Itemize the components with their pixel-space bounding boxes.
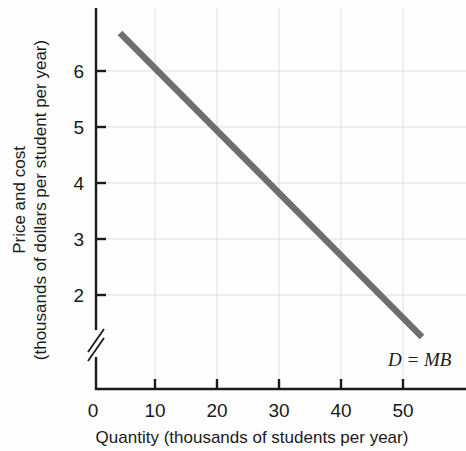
y-tick-label-6: 6 (73, 61, 84, 82)
y-tick-label-3: 3 (73, 229, 84, 250)
y-tick-label-5: 5 (73, 117, 84, 138)
x-tick-label-40: 40 (330, 400, 351, 421)
demand-marginal-benefit-chart: 6 5 4 3 2 0 10 20 30 40 50 D = MB Quanti… (0, 0, 466, 451)
y-tick-label-4: 4 (73, 173, 84, 194)
curve-label-d-mb: D = MB (387, 349, 452, 370)
x-axis-title: Quantity (thousands of students per year… (96, 428, 409, 447)
chart-background (0, 0, 466, 451)
x-tick-label-50: 50 (392, 400, 413, 421)
x-tick-label-10: 10 (144, 400, 165, 421)
y-axis-title-line2: (thousands of dollars per student per ye… (31, 40, 50, 360)
x-tick-label-30: 30 (268, 400, 289, 421)
y-tick-label-2: 2 (73, 285, 84, 306)
chart-figure: 6 5 4 3 2 0 10 20 30 40 50 D = MB Quanti… (0, 0, 466, 451)
x-tick-label-20: 20 (206, 400, 227, 421)
x-tick-label-0: 0 (88, 400, 99, 421)
y-axis-title-line1: Price and cost (10, 146, 29, 254)
